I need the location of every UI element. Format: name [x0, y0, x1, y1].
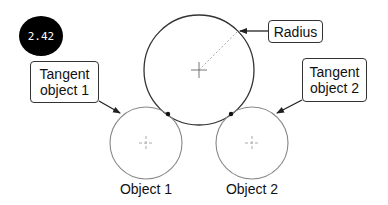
tangent-circle-diagram: 2.42 Radius Tangent object 1 Tangent obj…	[0, 0, 388, 205]
center-mark-icon	[191, 62, 207, 78]
arrow-tangent-2	[277, 100, 302, 113]
tangent-object-2-text: Tangent object 2	[307, 64, 362, 96]
object-2-label: Object 2	[212, 181, 292, 197]
object-1-label: Object 1	[106, 181, 186, 197]
radius-label: Radius	[268, 20, 323, 43]
radius-label-text: Radius	[274, 24, 318, 40]
arrow-tangent-1	[99, 101, 120, 113]
tangent-object-1-text: Tangent object 1	[35, 66, 94, 98]
center-mark-icon	[139, 136, 259, 150]
tangent-object-1-label: Tangent object 1	[30, 61, 99, 103]
tangent-point-1	[166, 112, 170, 116]
tangent-point-2	[229, 112, 233, 116]
radius-line	[199, 31, 238, 70]
tangent-object-2-label: Tangent object 2	[302, 58, 367, 102]
value-badge: 2.42	[19, 16, 63, 56]
